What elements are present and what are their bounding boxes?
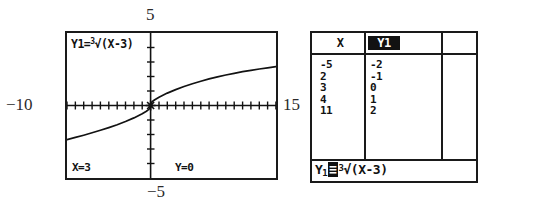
graph-screen[interactable]: Y1=3√(X-3) X=3 Y=0 — [65, 31, 278, 180]
calculator-screens-figure: 5 −5 −10 15 — [0, 0, 541, 211]
equation-label: Y1=3√(X-3) — [71, 37, 133, 51]
table-cell-x[interactable]: -5 — [320, 59, 332, 71]
table-column-divider-1 — [364, 33, 366, 161]
radicand: (X-3) — [101, 37, 133, 51]
graph-range-left-label: −10 — [6, 96, 33, 113]
table-formula-bar[interactable]: Y1≡3√(X-3) — [315, 162, 387, 178]
table-cell-y1[interactable]: 0 — [370, 82, 382, 94]
cube-root-curve — [67, 67, 276, 140]
table-header-x[interactable]: X — [318, 36, 362, 50]
trace-x-readout: X=3 — [72, 161, 90, 174]
formula-subscript: 1 — [322, 168, 327, 178]
graph-range-right-label: 15 — [283, 96, 300, 113]
formula-equals-block: ≡ — [328, 162, 337, 177]
table-cell-y1[interactable]: 2 — [370, 105, 382, 117]
table-footer-divider — [312, 159, 476, 161]
table-grid: X Y1 -5 2 3 4 11 -2 -1 0 1 2 Y1≡3√(X-3) — [312, 33, 476, 181]
table-column-x-values[interactable]: -5 2 3 4 11 — [320, 59, 332, 117]
graph-range-bottom-label: −5 — [147, 183, 165, 200]
table-screen[interactable]: X Y1 -5 2 3 4 11 -2 -1 0 1 2 Y1≡3√(X-3) — [310, 31, 478, 183]
table-cell-x[interactable]: 3 — [320, 82, 332, 94]
trace-cursor-dot — [148, 103, 152, 107]
table-cell-x[interactable]: 11 — [320, 105, 332, 117]
graph-range-top-label: 5 — [146, 6, 155, 23]
formula-radical-sign: √ — [344, 162, 351, 177]
equation-name: Y1= — [71, 37, 90, 51]
table-header-y1[interactable]: Y1 — [368, 36, 400, 50]
table-cell-y1[interactable]: -2 — [370, 59, 382, 71]
trace-y-readout: Y=0 — [175, 161, 193, 174]
formula-radicand: (X-3) — [351, 162, 388, 177]
table-header-divider — [312, 53, 476, 55]
table-column-divider-2 — [441, 33, 443, 161]
table-column-y1-values[interactable]: -2 -1 0 1 2 — [370, 59, 382, 117]
graph-plot-canvas — [67, 33, 276, 178]
